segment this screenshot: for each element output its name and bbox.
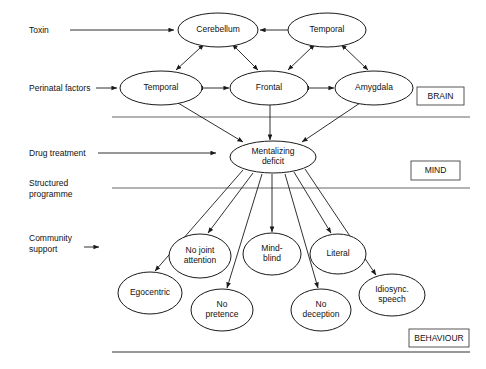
input-label-line: Drug treatment [29, 148, 86, 158]
node-label-line: Temporal [310, 24, 345, 34]
node-label-cerebellum: Cerebellum [196, 24, 239, 34]
node-label-line: Cerebellum [196, 24, 239, 34]
node-label-egocentric: Egocentric [130, 287, 171, 297]
input-label-line: Perinatal factors [29, 83, 90, 93]
node-label-line: Amygdala [355, 82, 393, 92]
input-label-line: support [29, 244, 58, 254]
node-temporal-top[interactable]: Temporal [288, 13, 366, 47]
node-label-line: Frontal [256, 82, 283, 92]
node-label-mind-blind: Mind-blind [261, 243, 282, 263]
input-label-toxin: Toxin [29, 25, 49, 35]
input-label-line: Structured [29, 178, 68, 188]
node-label-line: Idiosync. [375, 284, 409, 294]
node-label-temporal-left: Temporal [144, 82, 179, 92]
node-label-line: No [217, 299, 228, 309]
diagram-canvas: ToxinPerinatal factorsDrug treatmentStru… [0, 0, 486, 369]
node-label-line: deception [303, 309, 340, 319]
node-label-idiosync-speech: Idiosync.speech [375, 284, 409, 304]
node-label-line: attention [184, 255, 217, 265]
tier-label-behaviour: BEHAVIOUR [414, 333, 463, 343]
node-idiosync-speech[interactable]: Idiosync.speech [359, 274, 425, 316]
node-egocentric[interactable]: Egocentric [118, 272, 182, 314]
causal-model-diagram: ToxinPerinatal factorsDrug treatmentStru… [0, 0, 486, 369]
node-label-temporal-top: Temporal [310, 24, 345, 34]
input-label-line: Toxin [29, 25, 49, 35]
edge-temporal-top-frontal [288, 48, 311, 70]
node-label-line: Temporal [144, 82, 179, 92]
edge-cerebellum-frontal [236, 48, 258, 70]
input-label-drug-treatment: Drug treatment [29, 148, 86, 158]
node-label-line: blind [263, 253, 281, 263]
node-label-line: deficit [262, 156, 285, 166]
tier-behaviour: BEHAVIOUR [409, 329, 469, 347]
edge-cerebellum-temporal-left [176, 48, 200, 70]
node-mind-blind[interactable]: Mind-blind [243, 233, 301, 275]
tier-mind: MIND [411, 161, 460, 180]
nodes: CerebellumTemporalTemporalFrontalAmygdal… [118, 13, 425, 331]
node-label-line: pretence [205, 309, 238, 319]
input-label-line: programme [29, 189, 73, 199]
node-label-line: Mentalizing [252, 146, 295, 156]
node-frontal[interactable]: Frontal [230, 71, 308, 105]
edge-temporal-top-amygdala [345, 48, 368, 70]
node-label-frontal: Frontal [256, 82, 283, 92]
edge-amygdala-to-mentalizing [302, 103, 360, 142]
tier-label-mind: MIND [425, 165, 447, 175]
node-amygdala[interactable]: Amygdala [335, 71, 413, 105]
node-label-no-joint-attention: No jointattention [184, 245, 217, 265]
input-label-community-support: Communitysupport [29, 233, 73, 254]
node-label-line: speech [378, 294, 406, 304]
node-label-line: Egocentric [130, 287, 171, 297]
node-label-line: Mind- [261, 243, 282, 253]
node-no-deception[interactable]: Nodeception [291, 289, 351, 331]
node-mentalizing-deficit[interactable]: Mentalizingdeficit [230, 141, 316, 173]
node-label-literal: Literal [326, 248, 349, 258]
node-label-amygdala: Amygdala [355, 82, 393, 92]
node-label-line: No [316, 299, 327, 309]
edge-temporal-left-to-mentalizing [178, 103, 243, 142]
node-temporal-left[interactable]: Temporal [120, 71, 202, 105]
node-no-joint-attention[interactable]: No jointattention [169, 234, 231, 278]
tier-label-brain: BRAIN [428, 91, 454, 101]
input-label-perinatal-factors: Perinatal factors [29, 83, 90, 93]
node-cerebellum[interactable]: Cerebellum [178, 13, 258, 47]
node-label-line: Literal [326, 248, 349, 258]
node-literal[interactable]: Literal [310, 234, 366, 274]
input-label-structured-programme: Structuredprogramme [29, 178, 73, 199]
node-no-pretence[interactable]: Nopretence [191, 289, 253, 331]
tier-brain: BRAIN [417, 87, 464, 105]
node-label-line: No joint [186, 245, 215, 255]
input-label-line: Community [29, 233, 73, 243]
